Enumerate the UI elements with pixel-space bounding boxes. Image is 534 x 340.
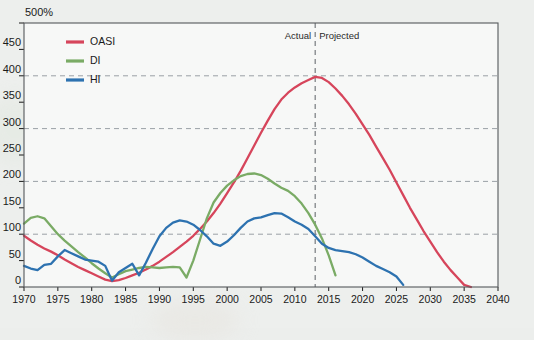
x-axis-label: 2040 (478, 293, 518, 305)
legend-label-oasi: OASI (90, 35, 115, 47)
legend-label-hi: HI (90, 73, 101, 85)
y-axis-label: 250 (0, 142, 21, 154)
projected-label: Projected (319, 30, 359, 41)
legend-label-di: DI (90, 54, 101, 66)
y-axis-label: 150 (0, 195, 21, 207)
y-axis-label: 300 (0, 116, 21, 128)
y-axis-label: 50 (0, 248, 21, 260)
y-axis-label: 100 (0, 221, 21, 233)
y-axis-label: 450 (0, 36, 21, 48)
y-axis-label: 0 (0, 274, 21, 286)
y-axis-label: 200 (0, 168, 21, 180)
actual-label: Actual (273, 30, 311, 41)
y-axis-label: 400 (0, 63, 21, 75)
y-axis-label: 350 (0, 89, 21, 101)
